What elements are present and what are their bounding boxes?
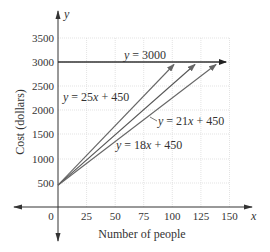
label-y-3000: y = 3000 — [123, 48, 166, 62]
svg-text:50: 50 — [110, 210, 122, 222]
label-y-25x-450: y = 25x + 450 — [62, 90, 129, 104]
y-tick-labels: 3500 3000 2500 2000 1500 1000 500 — [32, 32, 55, 189]
svg-text:25: 25 — [81, 210, 93, 222]
svg-text:3500: 3500 — [32, 32, 55, 44]
svg-text:500: 500 — [38, 177, 55, 189]
leader-line-21x — [150, 117, 157, 121]
y-axis-variable: y — [63, 7, 70, 21]
label-y-21x-450: y = 21x + 450 — [157, 114, 224, 128]
line-y-25x-450 — [58, 65, 174, 186]
svg-text:75: 75 — [138, 210, 150, 222]
svg-text:3000: 3000 — [32, 56, 55, 68]
y-axis-title: Cost (dollars) — [13, 89, 27, 155]
svg-text:0: 0 — [48, 210, 54, 222]
svg-text:2000: 2000 — [32, 104, 55, 116]
svg-text:125: 125 — [193, 210, 210, 222]
x-tick-labels: 0 25 50 75 100 125 150 — [48, 210, 238, 222]
chart: 3500 3000 2500 2000 1500 1000 500 0 25 5… — [0, 0, 270, 252]
x-axis-arrow-left-icon — [13, 205, 22, 210]
svg-text:1000: 1000 — [32, 153, 55, 165]
x-axis-variable: x — [250, 209, 257, 223]
label-y-18x-450: y = 18x + 450 — [115, 138, 182, 152]
x-axis-title: Number of people — [98, 227, 185, 241]
y-axis-arrow-up-icon — [56, 10, 61, 19]
svg-text:100: 100 — [164, 210, 181, 222]
y-axis-arrow-down-icon — [56, 233, 61, 242]
svg-text:2500: 2500 — [32, 80, 55, 92]
svg-text:1500: 1500 — [32, 128, 55, 140]
svg-text:150: 150 — [221, 210, 238, 222]
